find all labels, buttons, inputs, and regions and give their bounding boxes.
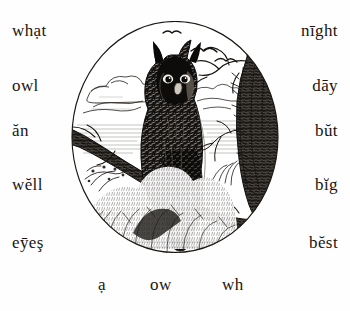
word-right-4: bĕst <box>309 234 338 251</box>
word-left-0: whạt <box>12 22 47 39</box>
primer-page: whạt owl ăn wĕll eȳeş nīght dāy bŭt bĭg … <box>0 0 350 311</box>
phoneme-1: ow <box>150 276 172 293</box>
word-left-4: eȳeş <box>12 234 44 251</box>
owl-illustration <box>71 21 279 254</box>
phoneme-row: ạ ow wh <box>0 276 350 302</box>
word-left-2: ăn <box>12 122 29 139</box>
phoneme-0: ạ <box>98 276 106 293</box>
word-left-3: wĕll <box>12 176 43 193</box>
word-right-0: nīght <box>301 22 338 39</box>
word-right-2: bŭt <box>315 122 338 139</box>
word-right-3: bĭg <box>315 176 338 193</box>
phoneme-2: wh <box>222 276 244 293</box>
word-left-1: owl <box>12 77 39 94</box>
word-right-1: dāy <box>312 77 338 94</box>
